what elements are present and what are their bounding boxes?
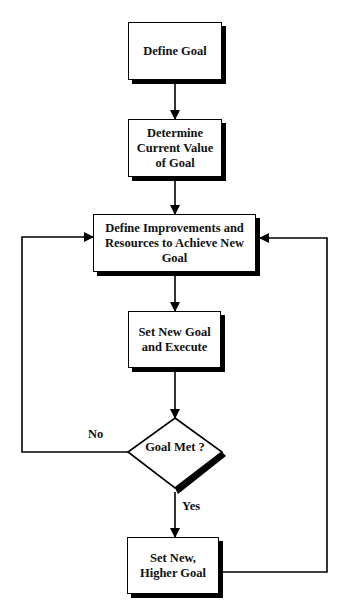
connector-lines [0,0,344,615]
node-define-goal: Define Goal [128,22,222,80]
node-define-improvements: Define Improvements and Resources to Ach… [93,214,256,272]
edge-label-no: No [88,427,103,442]
arrow-higher-goal-loop [223,238,327,572]
edge-label-yes: Yes [182,499,200,514]
node-label: Set New, Higher Goal [140,551,206,581]
node-label: Set New Goal and Execute [138,325,210,355]
node-set-new-goal: Set New Goal and Execute [128,311,221,368]
decision-label: Goal Met ? [128,440,222,455]
node-label: Define Improvements and Resources to Ach… [105,221,244,266]
node-label: Define Goal [143,44,207,59]
node-label: Determine Current Value of Goal [137,126,214,171]
node-set-higher-goal: Set New, Higher Goal [127,537,219,594]
node-determine-current-value: Determine Current Value of Goal [128,119,222,177]
